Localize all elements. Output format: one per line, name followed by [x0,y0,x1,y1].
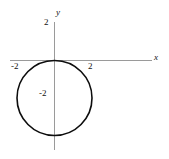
y-tick-label-negative-2: -2 [39,89,47,98]
y-axis-label: y [56,8,60,17]
plot-canvas [0,0,169,159]
circle-graph-figure: y 2 -2 2 -2 x [0,0,169,159]
x-tick-label-negative-2: -2 [11,62,19,71]
y-tick-label-positive-2: 2 [44,18,49,27]
x-tick-label-positive-2: 2 [88,62,93,71]
x-axis-label: x [154,53,158,62]
